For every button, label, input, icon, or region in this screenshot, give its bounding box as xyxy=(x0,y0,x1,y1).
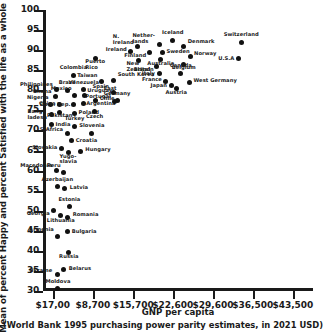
data-point-label: Dom. Rep. xyxy=(40,102,71,108)
data-point-label: Ghana xyxy=(33,89,52,95)
data-point-label: Estonia xyxy=(58,197,80,203)
plot-area: 3035404550556065707580859095100$17,00$8,… xyxy=(43,10,313,291)
data-point-label: Pakistan xyxy=(47,113,73,119)
data-point-label: Denmark xyxy=(188,39,215,45)
data-point-label: Norway xyxy=(194,51,216,57)
data-point xyxy=(55,184,60,189)
x-tick-mark xyxy=(53,291,55,299)
data-point-label: Iceland xyxy=(162,30,184,36)
data-point-label: Ukraine xyxy=(29,268,52,274)
x-axis-note: (World Bank 1995 purchasing power parity… xyxy=(0,320,326,330)
x-tick-mark xyxy=(293,291,295,299)
x-tick-mark xyxy=(213,291,215,299)
y-tick-label: 30 xyxy=(27,285,39,296)
data-point-label: West Germany xyxy=(193,78,236,84)
data-point xyxy=(89,131,94,136)
data-point-label: Armenia xyxy=(29,227,54,233)
data-point xyxy=(49,122,54,127)
data-point xyxy=(78,149,83,154)
data-point-label: Czech xyxy=(86,114,103,120)
data-point-label: Spain xyxy=(92,84,109,90)
data-point xyxy=(55,234,60,239)
data-point xyxy=(55,286,60,291)
data-point xyxy=(65,215,70,220)
data-point-label: U.S.A xyxy=(218,56,234,62)
data-point xyxy=(170,38,175,43)
data-point-label: Russia xyxy=(59,254,78,260)
data-point-label: Canada xyxy=(170,63,192,69)
data-point xyxy=(115,98,120,103)
y-tick-label: 95 xyxy=(27,24,39,35)
data-point xyxy=(239,40,244,45)
data-point xyxy=(65,229,70,234)
data-point xyxy=(69,138,74,143)
data-point xyxy=(82,93,87,98)
x-tick-mark xyxy=(253,291,255,299)
data-point xyxy=(53,94,58,99)
data-point-label: Colombia xyxy=(60,65,88,71)
x-axis-title: GNP per capita xyxy=(43,307,313,317)
scatter-chart: 3035404550556065707580859095100$17,00$8,… xyxy=(0,0,326,336)
y-tick-label: 70 xyxy=(27,124,39,135)
y-tick-label: 55 xyxy=(27,185,39,196)
data-point-label: N. Ireland xyxy=(113,34,134,45)
y-tick-label: 40 xyxy=(27,245,39,256)
data-point xyxy=(154,64,159,69)
data-point xyxy=(71,73,76,78)
y-tick-label: 90 xyxy=(27,44,39,55)
data-point xyxy=(65,88,70,93)
data-point-label: Switzerland xyxy=(224,32,259,38)
x-tick-mark xyxy=(133,291,135,299)
y-tick-label: 100 xyxy=(21,4,39,15)
data-point-label: Lithuania xyxy=(47,218,75,224)
data-point xyxy=(157,42,162,47)
data-point xyxy=(135,44,140,49)
data-point xyxy=(61,267,66,272)
x-tick-mark xyxy=(93,291,95,299)
data-point xyxy=(62,186,67,191)
data-point-label: Georgia xyxy=(27,211,50,217)
data-point-label: Bang- ladesh xyxy=(27,109,47,120)
data-point-label: Peru xyxy=(47,163,61,169)
data-point-label: Belarus xyxy=(69,266,91,272)
data-point xyxy=(181,44,186,49)
data-point xyxy=(72,111,77,116)
data-point xyxy=(51,208,56,213)
data-point xyxy=(65,131,70,136)
data-point xyxy=(178,71,183,76)
data-point xyxy=(81,101,86,106)
data-point-label: Sweden xyxy=(166,49,189,55)
data-point-label: Philippines xyxy=(20,82,53,88)
data-point xyxy=(147,50,152,55)
data-point-label: Slovakia xyxy=(32,145,57,151)
data-point-label: Hungary xyxy=(85,147,110,153)
data-point-label: Latvia xyxy=(70,185,88,191)
data-point xyxy=(67,204,72,209)
data-point xyxy=(188,54,193,59)
data-point-label: Romania xyxy=(73,212,99,218)
y-axis-title: Mean of percent Happy and percent Satisf… xyxy=(0,0,10,336)
data-point xyxy=(169,83,174,88)
data-point-label: Taiwan xyxy=(77,73,97,79)
data-point xyxy=(72,124,77,129)
data-point-label: Austria xyxy=(166,90,187,96)
data-point-label: Nether- lands xyxy=(132,33,155,44)
data-point-label: Slovenia xyxy=(79,123,104,129)
data-point xyxy=(160,50,165,55)
data-point xyxy=(71,102,76,107)
data-point-label: Croatia xyxy=(76,138,98,144)
data-point-label: Moldova xyxy=(45,279,70,285)
data-point-label: Puerto Rico xyxy=(85,59,105,70)
data-point xyxy=(54,168,59,173)
data-point-label: Bulgaria xyxy=(72,229,97,235)
data-point-label: Argentina xyxy=(86,101,115,107)
data-point xyxy=(61,170,66,175)
data-point xyxy=(111,90,116,95)
data-point xyxy=(187,80,192,85)
data-point xyxy=(59,146,64,151)
data-point-label: Azerbaijan xyxy=(42,177,74,183)
data-point xyxy=(111,78,116,83)
data-point-label: Yugo- slavia xyxy=(60,154,77,165)
y-tick-label: 85 xyxy=(27,64,39,75)
x-tick-mark xyxy=(173,291,175,299)
